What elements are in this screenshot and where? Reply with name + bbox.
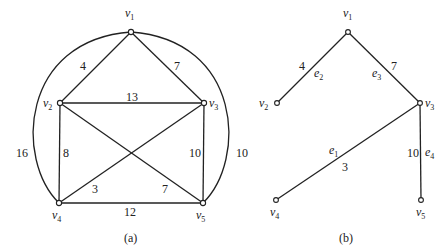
weight-v4-v3: 3 (92, 182, 98, 196)
graph-b: v1 v2 v3 v4 v5 4 7 3 10 e2 e3 e1 e4 (b) (259, 6, 434, 245)
tree-vertex-label-v3: v3 (425, 96, 434, 112)
edge-v1-v5-curved (131, 32, 229, 203)
weight-v1-v5-curved: 10 (236, 146, 248, 160)
vertex-label-v4: v4 (52, 208, 61, 224)
weight-v2-v5: 7 (162, 182, 168, 196)
weight-v1-v4-curved: 16 (16, 146, 28, 160)
vertex-v4 (56, 200, 61, 205)
vertex-label-v1: v1 (125, 6, 134, 22)
vertex-v1 (128, 29, 133, 34)
edge-v3-v5 (203, 103, 204, 203)
weight-v4-v5: 12 (124, 205, 136, 219)
tree-vertex-label-v5: v5 (416, 205, 425, 221)
vertex-v2 (57, 100, 62, 105)
tree-vertex-v2 (275, 101, 280, 106)
edge-label-e1: e1 (329, 143, 338, 159)
edge-label-e3: e3 (372, 66, 381, 82)
tree-weight-v1-v3: 7 (391, 59, 397, 73)
weight-v2-v4: 8 (63, 146, 69, 160)
edge-v2-v4 (59, 103, 60, 203)
graph-figure: v1 v2 v3 v4 v5 4 7 13 8 10 3 7 12 16 10 … (0, 0, 448, 249)
tree-edge-v3-v4 (276, 103, 420, 200)
vertex-label-v3: v3 (209, 96, 218, 112)
caption-b: (b) (339, 231, 353, 245)
tree-vertex-v4 (274, 198, 279, 203)
tree-vertex-v5 (419, 198, 424, 203)
vertex-label-v2: v2 (43, 96, 52, 112)
vertex-v3 (201, 100, 206, 105)
edge-label-e2: e2 (314, 66, 323, 82)
tree-weight-v1-v2: 4 (299, 59, 305, 73)
tree-edge-v1-v2 (277, 32, 348, 103)
graph-a: v1 v2 v3 v4 v5 4 7 13 8 10 3 7 12 16 10 … (16, 6, 248, 245)
tree-edge-v1-v3 (348, 32, 420, 103)
tree-weight-v3-v4: 3 (342, 160, 348, 174)
vertex-label-v5: v5 (196, 208, 205, 224)
tree-vertex-label-v4: v4 (270, 205, 279, 221)
edge-label-e4: e4 (425, 145, 434, 161)
weight-v1-v2: 4 (80, 59, 86, 73)
tree-vertex-label-v2: v2 (259, 96, 268, 112)
edge-v1-v4-curved (33, 32, 131, 203)
tree-weight-v3-v5: 10 (407, 146, 419, 160)
tree-vertex-v1 (346, 30, 351, 35)
edge-v1-v2 (60, 32, 131, 103)
weight-v2-v3: 13 (126, 90, 138, 104)
vertex-v5 (200, 200, 205, 205)
tree-vertex-v3 (418, 101, 423, 106)
edge-v1-v3 (131, 32, 204, 103)
weight-v1-v3: 7 (174, 59, 180, 73)
caption-a: (a) (124, 231, 137, 245)
weight-v3-v5: 10 (189, 146, 201, 160)
tree-vertex-label-v1: v1 (343, 6, 352, 22)
tree-edge-v3-v5 (420, 103, 421, 200)
